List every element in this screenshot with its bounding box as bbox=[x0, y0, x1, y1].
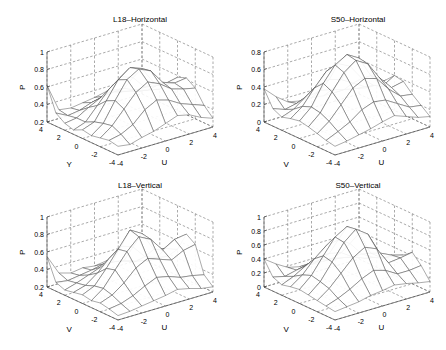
z-tick-label: 0.4 bbox=[34, 266, 44, 273]
z-tick-label: 0.8 bbox=[34, 66, 44, 73]
u-tick-label: 2 bbox=[406, 139, 410, 146]
v-tick-label: -2 bbox=[91, 316, 97, 323]
z-tick-label: 0.2 bbox=[251, 270, 261, 277]
z-tick-label: 0.6 bbox=[34, 84, 44, 91]
v-tick-label: 2 bbox=[274, 299, 278, 306]
z-tick-label: 0 bbox=[257, 284, 261, 291]
u-tick-label: 2 bbox=[189, 304, 193, 311]
z-tick-label: 0.2 bbox=[251, 101, 261, 108]
z-tick-label: 1 bbox=[257, 214, 261, 221]
u-tick-label: -2 bbox=[141, 318, 147, 325]
z-tick-label: 0.2 bbox=[34, 284, 44, 291]
v-tick-label: 2 bbox=[274, 134, 278, 141]
z-tick-label: 0.8 bbox=[251, 228, 261, 235]
u-tick-label: -2 bbox=[141, 153, 147, 160]
v-tick-label: -2 bbox=[308, 316, 314, 323]
u-tick-label: 2 bbox=[189, 139, 193, 146]
v-tick-label: 4 bbox=[256, 291, 260, 298]
z-tick-label: 0.4 bbox=[251, 84, 261, 91]
plot-title: S50–Horizontal bbox=[331, 15, 386, 24]
z-tick-label: 0.6 bbox=[34, 249, 44, 256]
plot-title: S50–Vertical bbox=[336, 181, 381, 190]
u-tick-label: -4 bbox=[334, 160, 340, 167]
surface-plot-l18-horizontal: L18–Horizontal 0.20.40.60.81420-2-4-4-20… bbox=[18, 15, 217, 169]
u-tick-label: 0 bbox=[383, 311, 387, 318]
v-tick-label: 0 bbox=[292, 308, 296, 315]
z-tick-label: 0.8 bbox=[251, 49, 261, 56]
z-tick-label: 0.8 bbox=[34, 231, 44, 238]
x-axis-label: U bbox=[162, 158, 168, 167]
v-tick-label: -4 bbox=[109, 324, 115, 331]
y-axis-label: V bbox=[284, 160, 290, 169]
x-axis-label: U bbox=[379, 323, 385, 332]
v-tick-label: -4 bbox=[326, 324, 332, 331]
u-tick-label: -4 bbox=[334, 325, 340, 332]
v-tick-label: 0 bbox=[292, 143, 296, 150]
z-axis-label: P bbox=[18, 250, 27, 255]
z-tick-label: 0.2 bbox=[34, 119, 44, 126]
plot-title: L18–Vertical bbox=[118, 181, 162, 190]
v-tick-label: 4 bbox=[39, 291, 43, 298]
v-tick-label: -4 bbox=[109, 159, 115, 166]
surface-plot-s50-vertical: S50–Vertical 00.20.40.60.81420-2-4-4-202… bbox=[235, 181, 434, 334]
z-tick-label: 0.6 bbox=[251, 242, 261, 249]
v-tick-label: 4 bbox=[39, 126, 43, 133]
z-axis-label: P bbox=[235, 250, 244, 255]
v-tick-label: 0 bbox=[75, 308, 79, 315]
u-tick-label: 0 bbox=[166, 146, 170, 153]
surface-plot-s50-horizontal: S50–Horizontal 00.20.40.60.8420-2-4-4-20… bbox=[235, 15, 434, 169]
v-tick-label: -4 bbox=[326, 159, 332, 166]
v-tick-label: 2 bbox=[57, 134, 61, 141]
y-axis-label: V bbox=[67, 325, 73, 334]
z-tick-label: 1 bbox=[40, 214, 44, 221]
plot-title: L18–Horizontal bbox=[113, 15, 167, 24]
u-tick-label: 2 bbox=[406, 304, 410, 311]
u-tick-label: 4 bbox=[430, 132, 434, 139]
v-tick-label: -2 bbox=[91, 151, 97, 158]
z-axis-label: P bbox=[235, 85, 244, 90]
v-tick-label: 2 bbox=[57, 299, 61, 306]
u-tick-label: 4 bbox=[213, 132, 217, 139]
z-tick-label: 0.4 bbox=[34, 101, 44, 108]
v-tick-label: 0 bbox=[75, 143, 79, 150]
v-tick-label: -2 bbox=[308, 151, 314, 158]
u-tick-label: 0 bbox=[383, 146, 387, 153]
u-tick-label: 4 bbox=[430, 297, 434, 304]
u-tick-label: -2 bbox=[358, 318, 364, 325]
x-axis-label: U bbox=[379, 158, 385, 167]
y-axis-label: Y bbox=[67, 160, 73, 169]
surface-patch bbox=[47, 256, 68, 282]
u-tick-label: 0 bbox=[166, 311, 170, 318]
v-tick-label: 4 bbox=[256, 126, 260, 133]
figure: L18–Horizontal 0.20.40.60.81420-2-4-4-20… bbox=[0, 0, 446, 350]
u-tick-label: 4 bbox=[213, 297, 217, 304]
z-tick-label: 0.4 bbox=[251, 256, 261, 263]
y-axis-label: V bbox=[284, 325, 290, 334]
z-axis-label: P bbox=[18, 85, 27, 90]
u-tick-label: -2 bbox=[358, 153, 364, 160]
z-tick-label: 1 bbox=[40, 49, 44, 56]
u-tick-label: -4 bbox=[117, 160, 123, 167]
x-axis-label: U bbox=[162, 323, 168, 332]
z-tick-label: 0.6 bbox=[251, 66, 261, 73]
u-tick-label: -4 bbox=[117, 325, 123, 332]
surface-plot-l18-vertical: L18–Vertical 0.20.40.60.81420-2-4-4-2024… bbox=[18, 181, 217, 334]
z-tick-label: 0 bbox=[257, 119, 261, 126]
